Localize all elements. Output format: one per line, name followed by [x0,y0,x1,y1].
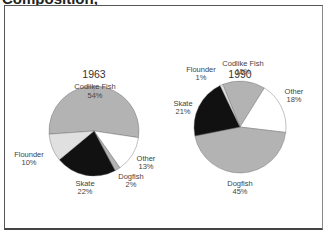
pct-1990-flounder: 1% [196,73,207,82]
pie-slice-dogfish [195,127,286,173]
pie-1990 [194,81,286,173]
pct-1963-codlike: 54% [87,91,102,100]
pie-charts: 1963 Codlike Fish 54% Flounder 10% Other… [0,0,330,236]
pie-1963-year: 1963 [82,68,106,80]
pct-1990-other: 18% [286,95,301,104]
label-1963-codlike: Codlike Fish [74,82,115,91]
pct-1963-flounder: 10% [21,158,36,167]
pct-1963-dogfish: 2% [126,180,137,189]
pct-1963-other: 13% [138,162,153,171]
pct-1990-skate: 21% [175,107,190,116]
pct-1963-skate: 22% [77,187,92,196]
pct-1990-codlike: 15% [235,67,250,76]
pct-1990-dogfish: 45% [232,187,247,196]
